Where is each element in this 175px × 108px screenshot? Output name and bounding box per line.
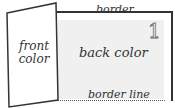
back-color-label: back color: [79, 45, 148, 60]
border-label: border: [96, 3, 134, 16]
page-number: 1: [148, 19, 161, 43]
border-line-label: border line: [88, 88, 150, 101]
front-color-label: frontcolor: [18, 40, 50, 66]
